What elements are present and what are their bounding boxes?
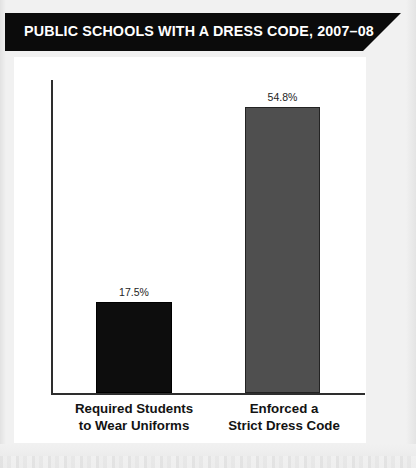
page-canvas: PUBLIC SCHOOLS WITH A DRESS CODE, 2007–0… (0, 0, 416, 468)
x-axis-label-dress-code: Enforced a Strict Dress Code (204, 401, 364, 434)
chart-title-banner: PUBLIC SCHOOLS WITH A DRESS CODE, 2007–0… (5, 13, 401, 51)
bar-required-students-to-wear-uniforms (96, 302, 172, 393)
x-axis-line (51, 393, 365, 395)
bar-enforced-a-strict-dress-code (245, 107, 320, 393)
page-bottom-scan-speckle (0, 456, 416, 468)
page-left-edge-shading (0, 0, 6, 468)
bar-value-label-dress-code: 54.8% (245, 91, 320, 103)
x-axis-label-dress-code-line1: Enforced a (204, 401, 364, 418)
bar-chart-plot-area: 17.5% 54.8% Required Students to Wear Un… (14, 57, 366, 443)
page-title: PUBLIC SCHOOLS WITH A DRESS CODE, 2007–0… (24, 13, 374, 51)
x-axis-label-dress-code-line2: Strict Dress Code (204, 418, 364, 435)
x-axis-label-uniforms-line2: to Wear Uniforms (54, 418, 214, 435)
bar-value-label-uniforms: 17.5% (96, 286, 172, 298)
chart-card: 17.5% 54.8% Required Students to Wear Un… (14, 57, 366, 443)
y-axis-line (51, 80, 53, 395)
page-right-edge-shading (406, 0, 416, 468)
x-axis-label-uniforms: Required Students to Wear Uniforms (54, 401, 214, 434)
x-axis-label-uniforms-line1: Required Students (54, 401, 214, 418)
